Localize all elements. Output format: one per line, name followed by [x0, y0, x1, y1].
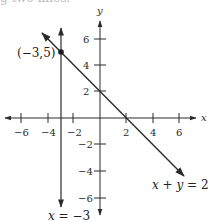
eq-rhs: = −3 — [55, 209, 90, 222]
x-tick-label: −4 — [41, 127, 56, 138]
line-x-plus-y-equals-2 — [42, 33, 184, 176]
x-tick-label: 2 — [123, 127, 129, 138]
x-tick-label: 4 — [150, 127, 156, 138]
equation-label-x-equals-neg3: x = −3 — [48, 209, 90, 222]
y-tick-label: 2 — [83, 86, 89, 97]
y-axis-label: y — [96, 5, 103, 16]
x-tick-label: −6 — [14, 127, 29, 138]
x-tick-label: 6 — [176, 127, 182, 138]
equation-label-x-plus-y: x + y = 2 — [152, 178, 208, 192]
x-tick-labels: −6 −4 −2 2 4 6 — [14, 127, 182, 138]
y-tick-label: 4 — [83, 60, 89, 71]
eq-rhs: = 2 — [183, 178, 208, 192]
y-tick-labels: 6 4 2 −2 −4 −6 — [78, 34, 93, 204]
y-tick-label: −2 — [78, 139, 93, 150]
y-tick-label: −6 — [78, 193, 93, 204]
x-axis-label: x — [201, 112, 207, 123]
intersection-label: (−3,5) — [17, 46, 56, 60]
y-tick-label: 6 — [83, 34, 89, 45]
eq-plus: + — [159, 178, 177, 192]
intersection-point — [58, 49, 64, 55]
coordinate-plane: x y −6 −4 −2 2 4 6 6 4 2 −2 −4 −6 — [0, 0, 208, 222]
y-tick-label: −4 — [78, 166, 93, 177]
x-tick-label: −2 — [67, 127, 82, 138]
